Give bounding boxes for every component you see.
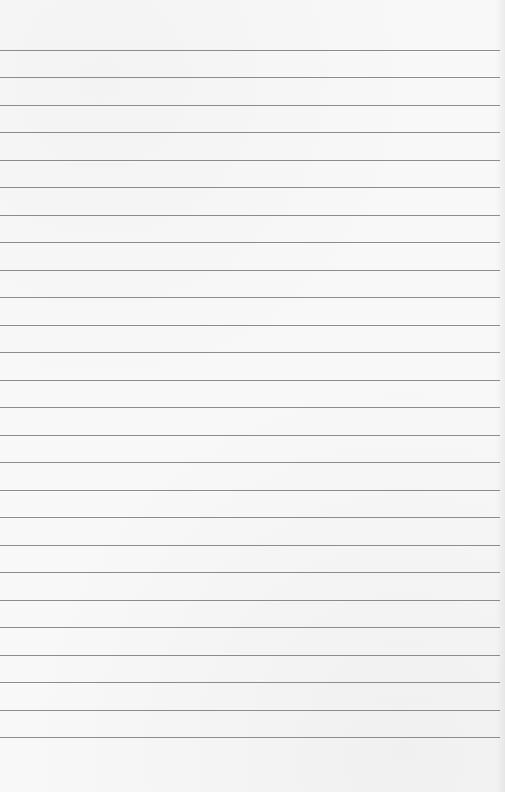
- ruled-line: [0, 187, 500, 188]
- ruled-line: [0, 462, 500, 463]
- ruled-line: [0, 242, 500, 243]
- ruled-line: [0, 517, 500, 518]
- ruled-line: [0, 600, 500, 601]
- lined-paper-sheet: [0, 0, 505, 792]
- ruled-line: [0, 710, 500, 711]
- ruled-line: [0, 737, 500, 738]
- ruled-line: [0, 270, 500, 271]
- ruled-line: [0, 490, 500, 491]
- ruled-line: [0, 297, 500, 298]
- ruled-line: [0, 545, 500, 546]
- ruled-line: [0, 352, 500, 353]
- ruled-line: [0, 407, 500, 408]
- ruled-line: [0, 325, 500, 326]
- ruled-line: [0, 627, 500, 628]
- ruled-line: [0, 105, 500, 106]
- ruled-line: [0, 655, 500, 656]
- ruled-line: [0, 435, 500, 436]
- ruled-line: [0, 380, 500, 381]
- ruled-line: [0, 682, 500, 683]
- ruled-line: [0, 77, 500, 78]
- ruled-line: [0, 215, 500, 216]
- ruled-line: [0, 160, 500, 161]
- ruled-line: [0, 572, 500, 573]
- ruled-line: [0, 50, 500, 51]
- ruled-line: [0, 132, 500, 133]
